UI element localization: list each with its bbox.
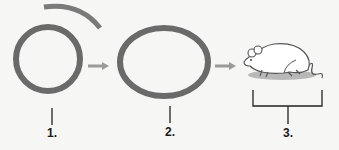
step-label-1: 1. bbox=[47, 127, 57, 139]
ring-step-1 bbox=[16, 27, 80, 91]
ring-step-2 bbox=[120, 28, 208, 96]
arrow-icon-1 bbox=[88, 62, 109, 70]
mouse-icon bbox=[244, 44, 323, 80]
step-label-2: 2. bbox=[165, 126, 175, 138]
arrow-icon-2 bbox=[215, 62, 236, 70]
bracket-step-3 bbox=[253, 90, 322, 124]
step-label-3: 3. bbox=[283, 127, 293, 139]
